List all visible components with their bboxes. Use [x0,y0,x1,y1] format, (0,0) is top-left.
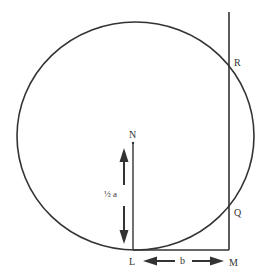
label-N: N [129,129,136,140]
half-a-dimension-arrow [120,148,129,244]
label-M: M [229,257,238,268]
label-Q: Q [234,207,242,218]
label-L: L [129,256,135,267]
label-R: R [234,57,241,68]
label-half-a: ½ a [104,189,117,199]
circle-tangent-diagram: N L M R Q ½ a b [0,0,264,279]
label-b: b [180,255,185,266]
point-N [132,142,134,144]
